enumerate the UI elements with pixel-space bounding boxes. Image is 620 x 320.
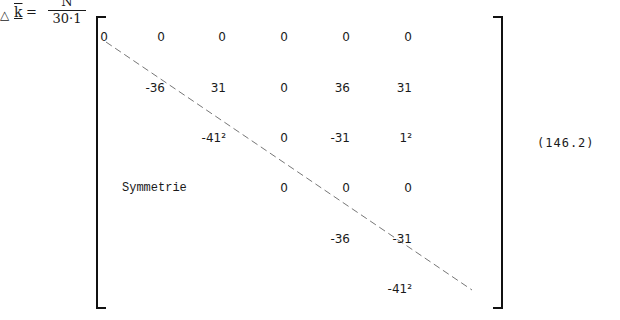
- matrix-cell-1-4: 36: [310, 81, 350, 95]
- matrix-cell-0-4: 0: [310, 30, 350, 44]
- matrix-cell-1-3: 0: [248, 81, 288, 95]
- symmetry-label: Symmetrie: [122, 181, 187, 195]
- equation-number: (146.2): [537, 136, 595, 150]
- matrix-cell-1-2: 31: [186, 81, 226, 95]
- matrix-cell-0-0: 0: [68, 30, 108, 44]
- matrix-cell-2-2: -41²: [186, 131, 226, 145]
- matrix-cell-0-3: 0: [248, 30, 288, 44]
- matrix-cell-3-5: 0: [372, 181, 412, 195]
- matrix-cell-2-5: 1²: [372, 131, 412, 145]
- matrix-cell-0-2: 0: [186, 30, 226, 44]
- matrix-cell-5-5: -41²: [372, 282, 412, 296]
- matrix-cell-0-1: 0: [125, 30, 165, 44]
- matrix-cell-1-1: -36: [125, 81, 165, 95]
- matrix-cell-0-5: 0: [372, 30, 412, 44]
- matrix-cell-3-3: 0: [248, 181, 288, 195]
- matrix-cell-1-5: 31: [372, 81, 412, 95]
- diagonal-dashed-line: [0, 0, 620, 320]
- matrix-cell-2-4: -31: [310, 131, 350, 145]
- matrix-cell-4-4: -36: [310, 232, 350, 246]
- matrix-cell-3-4: 0: [310, 181, 350, 195]
- matrix-cell-2-3: 0: [248, 131, 288, 145]
- matrix-cell-4-5: -31: [372, 232, 412, 246]
